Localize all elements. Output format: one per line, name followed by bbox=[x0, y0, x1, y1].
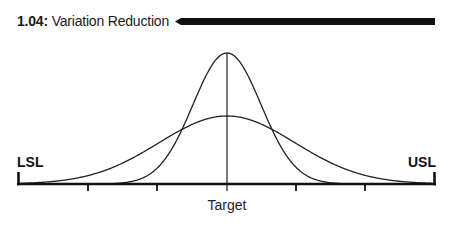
lsl-label: LSL bbox=[17, 154, 44, 170]
variation-diagram: LSL USL Target bbox=[0, 0, 453, 225]
target-label: Target bbox=[208, 197, 247, 213]
arrow-bar-icon bbox=[175, 18, 435, 25]
usl-label: USL bbox=[408, 154, 436, 170]
